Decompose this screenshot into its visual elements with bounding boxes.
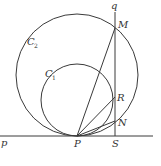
label-point-m: M (117, 19, 129, 30)
label-c2: C 2 (27, 36, 38, 49)
svg-text:2: 2 (34, 42, 38, 49)
svg-text:1: 1 (52, 74, 56, 81)
label-point-p: P (73, 138, 81, 149)
label-point-s: S (112, 138, 119, 149)
label-point-r: R (116, 92, 125, 103)
segment-pm (77, 28, 115, 136)
label-c1: C 1 (45, 68, 56, 81)
label-point-n: N (117, 117, 128, 128)
segment-pn (77, 121, 115, 136)
label-q: q (111, 0, 117, 11)
geometry-diagram: p q P S M R N C 2 C 1 (0, 0, 161, 166)
label-p: p (1, 137, 8, 148)
